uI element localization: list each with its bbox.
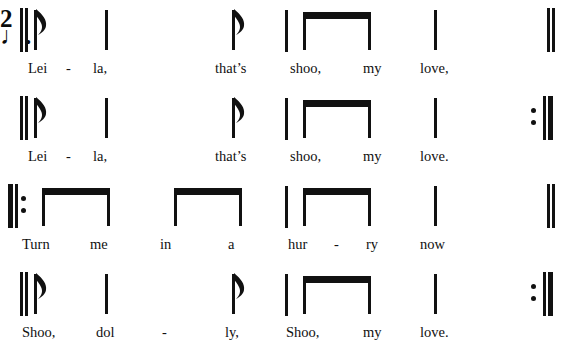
lyrics-row-1: Lei - la, that’s shoo, my love,	[0, 58, 562, 88]
lyric-syllable: now	[420, 234, 445, 254]
lyric-syllable: that’s	[215, 146, 246, 166]
repeat-dot	[21, 208, 26, 213]
staff-row-1: 2 ♩.	[0, 0, 562, 58]
note-stem	[434, 98, 437, 138]
note-stem	[105, 10, 108, 50]
note-stem	[105, 274, 108, 314]
eighth-flag-icon	[234, 97, 247, 123]
lyric-syllable: Lei	[28, 146, 47, 166]
beam	[303, 188, 371, 195]
lyric-hyphen: -	[162, 322, 167, 342]
music-system-4: Shoo, dol - ly, Shoo, my love.	[0, 264, 562, 352]
eighth-flag-icon	[234, 273, 247, 299]
lyric-syllable: a	[228, 234, 234, 254]
staff-row-3	[0, 176, 562, 234]
lyric-syllable: love.	[420, 322, 449, 342]
lyrics-row-4: Shoo, dol - ly, Shoo, my love.	[0, 322, 562, 352]
note-stem	[434, 186, 437, 226]
music-system-3: Turn me in a hur - ry now	[0, 176, 562, 264]
lyric-syllable: la,	[93, 58, 107, 78]
lyric-syllable: hur	[288, 234, 307, 254]
beam	[303, 12, 371, 19]
lyric-syllable: dol	[96, 322, 115, 342]
barline-interior	[285, 10, 288, 52]
lyric-syllable: Lei	[28, 58, 47, 78]
lyrics-row-2: Lei - la, that’s shoo, my love.	[0, 146, 562, 176]
lyrics-row-3: Turn me in a hur - ry now	[0, 234, 562, 264]
beam	[174, 188, 242, 195]
rhythm-notation-page: { "document": { "kind": "rhythm-notation…	[0, 0, 562, 352]
repeat-dot	[21, 196, 26, 201]
lyric-hyphen: -	[334, 234, 339, 254]
lyric-syllable: ly,	[225, 322, 239, 342]
lyric-syllable: shoo,	[290, 146, 321, 166]
lyric-syllable: my	[363, 146, 382, 166]
lyric-syllable: shoo,	[290, 58, 321, 78]
lyric-syllable: me	[90, 234, 108, 254]
lyric-syllable: Shoo,	[286, 322, 319, 342]
beam	[303, 100, 371, 107]
eighth-flag-icon	[234, 9, 247, 35]
music-system-1: 2 ♩.	[0, 0, 562, 88]
note-stem	[434, 10, 437, 50]
repeat-dot	[531, 108, 536, 113]
lyric-syllable: love.	[420, 146, 449, 166]
lyric-syllable: Turn	[22, 234, 50, 254]
barline-interior	[285, 98, 288, 140]
eighth-flag-icon	[36, 97, 49, 123]
lyric-syllable: love,	[420, 58, 449, 78]
note-stem	[105, 98, 108, 138]
lyric-syllable: in	[160, 234, 171, 254]
beam	[42, 188, 110, 195]
staff-row-4	[0, 264, 562, 322]
beam	[303, 276, 371, 283]
barline-interior	[285, 274, 288, 316]
staff-row-2	[0, 88, 562, 146]
repeat-dot	[531, 296, 536, 301]
lyric-syllable: that’s	[215, 58, 246, 78]
barline-interior	[285, 186, 288, 228]
lyric-hyphen: -	[66, 146, 71, 166]
eighth-flag-icon	[36, 273, 49, 299]
lyric-syllable: Shoo,	[22, 322, 55, 342]
lyric-syllable: la,	[93, 146, 107, 166]
note-stem	[434, 274, 437, 314]
lyric-syllable: my	[363, 58, 382, 78]
lyric-syllable: my	[363, 322, 382, 342]
lyric-hyphen: -	[66, 58, 71, 78]
repeat-dot	[531, 120, 536, 125]
repeat-dot	[531, 284, 536, 289]
music-system-2: Lei - la, that’s shoo, my love.	[0, 88, 562, 176]
lyric-syllable: ry	[366, 234, 378, 254]
eighth-flag-icon	[36, 9, 49, 35]
